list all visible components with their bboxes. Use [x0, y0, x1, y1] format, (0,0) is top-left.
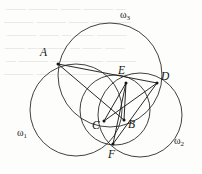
segment-a-b: [58, 64, 124, 120]
label-point-e: E: [118, 65, 125, 77]
label-circle-omega1: ω1: [17, 128, 27, 138]
vertex-point-e: [125, 82, 128, 85]
vertex-point-b: [123, 119, 126, 122]
label-point-c: C: [92, 120, 100, 132]
label-point-a: A: [40, 47, 47, 59]
vertex-point-c: [103, 120, 106, 123]
label-circle-omega2: ω2: [174, 136, 184, 146]
geometry-canvas: [0, 0, 202, 174]
label-circle-omega3: ω3: [120, 10, 130, 20]
label-point-f: F: [108, 149, 115, 161]
label-point-d: D: [161, 71, 169, 83]
vertex-point-d: [156, 82, 159, 85]
geometry-figure: —— ——— —— ——— — ——— ——— —— ———— ——— —— —…: [0, 0, 202, 174]
label-point-b: B: [128, 119, 135, 131]
vertex-point-f: [112, 143, 115, 146]
vertex-point-a: [57, 63, 60, 66]
